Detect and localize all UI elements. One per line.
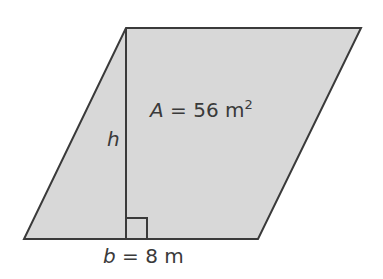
- parallelogram: [24, 28, 361, 239]
- height-label: h: [107, 127, 120, 151]
- base-label: b = 8 m: [103, 244, 184, 268]
- area-label: A = 56 m2: [148, 97, 253, 122]
- parallelogram-diagram: A = 56 m2 h b = 8 m: [0, 0, 383, 279]
